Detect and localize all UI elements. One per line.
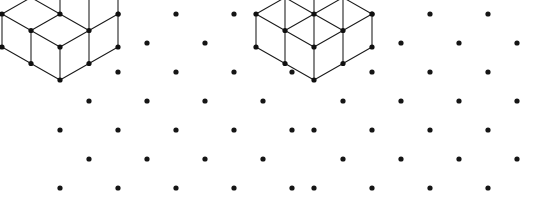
lattice-dot [202, 156, 207, 161]
lattice-dot [57, 127, 62, 132]
figure-canvas: (iii) (iv) [0, 0, 546, 201]
lattice-dot [369, 127, 374, 132]
lattice-dot [369, 185, 374, 190]
lattice-dot [173, 69, 178, 74]
cube-vertex [340, 61, 345, 66]
lattice-dot [456, 98, 461, 103]
lattice-dot [311, 127, 316, 132]
lattice-dot [427, 185, 432, 190]
lattice-dot [231, 127, 236, 132]
lattice-dot [86, 98, 91, 103]
lattice-dot [427, 127, 432, 132]
lattice-dot [231, 69, 236, 74]
lattice-dot [144, 98, 149, 103]
cube-vertex [253, 44, 258, 49]
lattice-dot [260, 98, 265, 103]
cube-vertex [311, 77, 316, 82]
lattice-dot [340, 98, 345, 103]
lattice-dot [398, 98, 403, 103]
cube-stack-iv [253, 0, 374, 83]
lattice-dot [514, 40, 519, 45]
cube-vertex [253, 11, 258, 16]
lattice-dot [340, 156, 345, 161]
lattice-dot [86, 156, 91, 161]
lattice-dot [485, 127, 490, 132]
lattice-dot [289, 185, 294, 190]
lattice-dot [202, 98, 207, 103]
cube-vertex [369, 11, 374, 16]
cube-vertex [311, 44, 316, 49]
cube-vertex [311, 11, 316, 16]
cube-vertex [369, 44, 374, 49]
cube-vertex [282, 28, 287, 33]
lattice-dot [115, 69, 120, 74]
lattice-dot [514, 98, 519, 103]
cube-vertex [115, 11, 120, 16]
isometric-cube-figures [0, 0, 546, 201]
cube-stack-iii [0, 0, 121, 83]
lattice-dot [289, 69, 294, 74]
cube-vertex [282, 61, 287, 66]
lattice-dot [231, 185, 236, 190]
lattice-dot [173, 127, 178, 132]
lattice-dot [398, 156, 403, 161]
lattice-dot [485, 11, 490, 16]
lattice-dot [485, 69, 490, 74]
lattice-dot [369, 69, 374, 74]
lattice-dot [427, 69, 432, 74]
cube-vertex [28, 28, 33, 33]
lattice-dot [57, 185, 62, 190]
lattice-dot [115, 127, 120, 132]
cube-vertex [340, 28, 345, 33]
cube-vertex [57, 44, 62, 49]
lattice-dot [311, 185, 316, 190]
lattice-dot [427, 11, 432, 16]
lattice-dot [173, 11, 178, 16]
cube-vertex [115, 44, 120, 49]
lattice-dot [456, 40, 461, 45]
cube-vertex [57, 11, 62, 16]
lattice-dot [202, 40, 207, 45]
lattice-dot [514, 156, 519, 161]
lattice-dot [289, 127, 294, 132]
lattice-dot [485, 185, 490, 190]
lattice-dot [144, 40, 149, 45]
cube-vertex [86, 28, 91, 33]
cube-vertex [28, 61, 33, 66]
lattice-dot [231, 11, 236, 16]
lattice-dot [398, 40, 403, 45]
cube-vertex [57, 77, 62, 82]
lattice-dot [173, 185, 178, 190]
lattice-dot [115, 185, 120, 190]
cube-vertex [86, 61, 91, 66]
lattice-dot [456, 156, 461, 161]
lattice-dot [144, 156, 149, 161]
lattice-dot [260, 156, 265, 161]
